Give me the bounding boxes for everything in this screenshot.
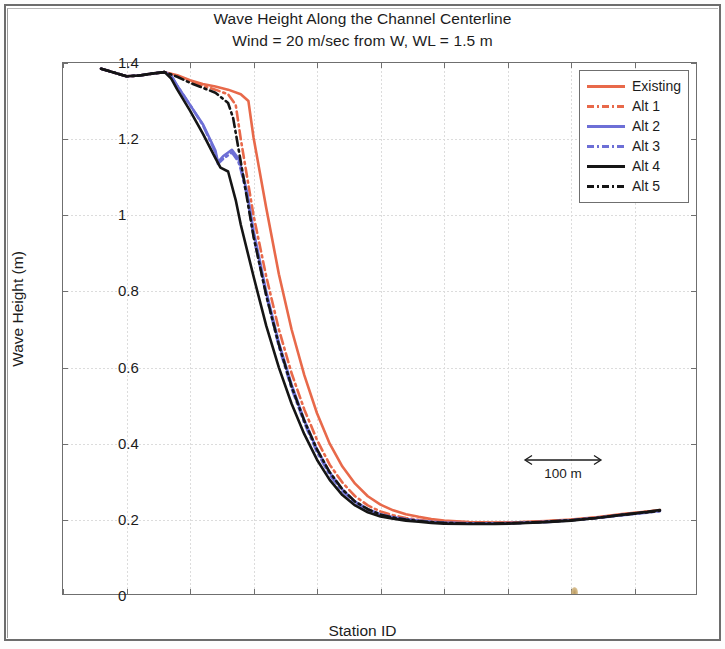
x-axis-tick [190,63,191,68]
x-axis-tick [508,589,509,594]
legend-label: Alt 2 [632,118,660,134]
y-tick-label: 0.8 [118,282,139,299]
legend-item-alt-4[interactable]: Alt 4 [587,156,682,176]
y-axis-tick [63,520,68,521]
x-axis-tick [571,63,572,68]
x-axis-title: Station ID [0,622,725,640]
legend-item-alt-1[interactable]: Alt 1 [587,96,682,116]
legend-swatch-icon [587,81,625,91]
series-line-alt-5 [101,69,660,524]
legend-label: Alt 3 [632,138,660,154]
series-line-alt-3 [101,69,660,524]
legend-item-alt-2[interactable]: Alt 2 [587,116,682,136]
x-axis-tick [127,589,128,594]
y-tick-label: 1 [118,206,126,223]
legend-item-alt-5[interactable]: Alt 5 [587,176,682,196]
legend-swatch-icon [587,161,625,171]
x-axis-tick [635,63,636,68]
y-tick-label: 0.6 [118,358,139,375]
legend-swatch-icon [587,101,625,111]
series-line-existing [101,69,660,523]
y-axis-tick [691,63,696,64]
x-axis-tick [254,589,255,594]
y-axis-tick [63,215,68,216]
legend: ExistingAlt 1Alt 2Alt 3Alt 4Alt 5 [579,70,689,203]
legend-label: Alt 5 [632,178,660,194]
series-line-alt-1 [101,69,660,523]
x-axis-tick [444,589,445,594]
y-tick-label: 0 [118,587,126,604]
scan-artifact-smudge [571,587,578,595]
y-axis-tick [63,291,68,292]
y-axis-tick [691,139,696,140]
legend-swatch-icon [587,141,625,151]
legend-swatch-icon [587,121,625,131]
legend-item-alt-3[interactable]: Alt 3 [587,136,682,156]
x-axis-tick [254,63,255,68]
x-axis-tick [635,589,636,594]
y-axis-tick [691,368,696,369]
x-axis-tick [190,589,191,594]
y-axis-tick [63,63,68,64]
y-tick-label: 1.2 [118,130,139,147]
x-axis-tick [381,589,382,594]
chart-title-block: Wave Height Along the Channel Centerline… [0,8,725,52]
y-axis-tick [691,444,696,445]
series-line-alt-2 [101,69,660,524]
y-tick-label: 0.4 [118,434,139,451]
legend-label: Alt 1 [632,98,660,114]
x-axis-tick [381,63,382,68]
x-axis-tick [317,589,318,594]
y-axis-tick [691,520,696,521]
legend-label: Alt 4 [632,158,660,174]
x-axis-tick [444,63,445,68]
series-line-alt-4 [101,69,660,524]
y-axis-tick [63,139,68,140]
plot-wrapper: 100 m 2530354045505560657075 00.20.40.60… [62,62,697,595]
chart-title-line-1: Wave Height Along the Channel Centerline [0,8,725,30]
legend-swatch-icon [587,181,625,191]
x-axis-tick [63,589,64,594]
y-tick-label: 1.4 [118,54,139,71]
legend-label: Existing [632,78,681,94]
figure-container: Wave Height Along the Channel Centerline… [0,0,725,649]
y-axis-tick [691,215,696,216]
x-axis-tick [317,63,318,68]
chart-title-line-2: Wind = 20 m/sec from W, WL = 1.5 m [0,30,725,52]
y-axis-tick [63,444,68,445]
y-axis-tick [691,291,696,292]
y-tick-label: 0.2 [118,510,139,527]
y-axis-tick [63,368,68,369]
legend-item-existing[interactable]: Existing [587,76,682,96]
x-axis-tick [508,63,509,68]
y-axis-title: Wave Height (m) [9,149,27,469]
